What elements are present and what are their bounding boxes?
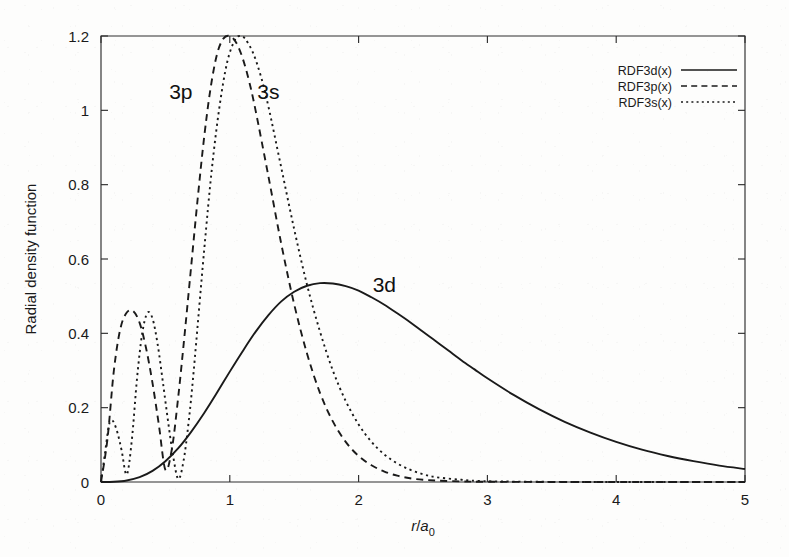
x-tick-label-2: 2 — [354, 491, 362, 508]
x-tick-label-0: 0 — [97, 491, 105, 508]
x-tick-label-5: 5 — [741, 491, 749, 508]
y-tick-label-0.8: 0.8 — [68, 176, 89, 193]
svg-text:r/a0: r/a0 — [411, 517, 435, 538]
y-tick-label-1.2: 1.2 — [68, 28, 89, 45]
y-tick-label-1: 1 — [81, 102, 89, 119]
legend-label-RDF3p(x): RDF3p(x) — [618, 80, 672, 94]
x-axis-title-denominator: a — [420, 517, 428, 534]
x-axis-title-subscript: 0 — [429, 526, 435, 538]
curve-3d — [101, 283, 745, 482]
annotation-3s: 3s — [257, 80, 279, 103]
legend-label-RDF3d(x): RDF3d(x) — [618, 64, 672, 78]
x-axis-tick-labels: 012345 — [97, 491, 749, 508]
y-axis-title-text: Radial density function — [22, 184, 39, 335]
radial-density-function-chart: 012345 00.20.40.60.811.2 3p3s3d RDF3d(x)… — [0, 0, 789, 557]
y-tick-label-0.6: 0.6 — [68, 251, 89, 268]
y-axis-title: Radial density function — [22, 184, 39, 335]
annotation-3d: 3d — [373, 273, 396, 296]
y-tick-label-0: 0 — [81, 474, 89, 491]
legend-label-RDF3s(x): RDF3s(x) — [619, 96, 672, 110]
figure-panel: 012345 00.20.40.60.811.2 3p3s3d RDF3d(x)… — [0, 0, 789, 557]
y-tick-label-0.4: 0.4 — [68, 325, 89, 342]
x-tick-label-4: 4 — [612, 491, 620, 508]
y-axis-tick-labels: 00.20.40.60.811.2 — [68, 28, 89, 491]
x-axis-title: r/a0 — [411, 517, 435, 538]
x-tick-label-1: 1 — [226, 491, 234, 508]
y-tick-label-0.2: 0.2 — [68, 399, 89, 416]
x-tick-label-3: 3 — [483, 491, 491, 508]
annotation-3p: 3p — [169, 80, 192, 103]
legend: RDF3d(x)RDF3p(x)RDF3s(x) — [618, 64, 737, 110]
